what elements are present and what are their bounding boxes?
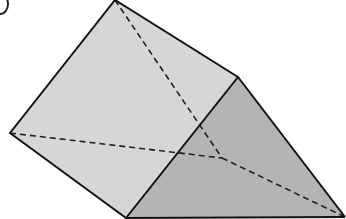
- prism-diagram: [0, 0, 346, 219]
- label-circle-partial: [0, 0, 8, 14]
